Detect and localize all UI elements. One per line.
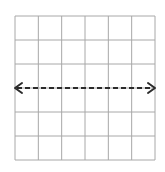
grid-diagram (0, 0, 165, 172)
